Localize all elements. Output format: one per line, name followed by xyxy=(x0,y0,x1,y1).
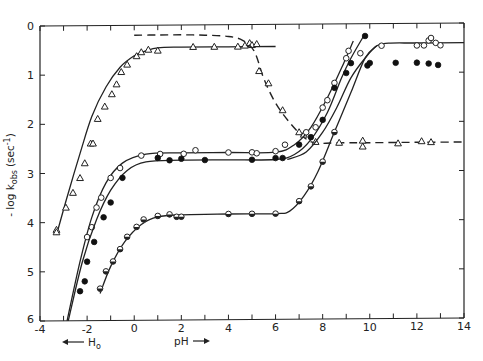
filled-circle-marker xyxy=(120,175,126,181)
filled-circle-marker xyxy=(167,157,173,163)
x-tick-label: 0 xyxy=(131,322,138,335)
filled-circle-marker xyxy=(414,60,420,66)
open-triangle-marker xyxy=(359,143,366,149)
open-circle-marker xyxy=(320,105,326,111)
open-triangle-marker xyxy=(70,189,77,195)
filled-circle-marker xyxy=(343,70,349,76)
filled-circle-marker xyxy=(108,200,114,206)
open-triangle-marker xyxy=(108,91,115,97)
ph-label: pH xyxy=(174,335,189,347)
open-circle-marker xyxy=(346,48,352,54)
filled-circle-marker xyxy=(393,60,399,66)
open-circle-marker xyxy=(94,205,100,211)
series-curve xyxy=(57,47,276,235)
open-circle-marker xyxy=(358,50,364,56)
y-tick-label: 2 xyxy=(27,118,34,131)
x-tick-label: 4 xyxy=(225,322,232,335)
x-tick-label: -4 xyxy=(35,323,46,336)
open-triangle-marker xyxy=(94,115,101,121)
ph-rate-profile-chart: -4-202468101214 0123456 - log kobs(sec-1… xyxy=(0,0,483,361)
filled-circle-marker xyxy=(367,60,373,66)
open-circle-marker xyxy=(379,43,385,49)
x-tick-label: 10 xyxy=(363,321,377,334)
open-circle-marker xyxy=(117,165,123,171)
open-circle-marker xyxy=(303,129,309,135)
open-circle-marker xyxy=(226,150,232,156)
y-axis-tick-labels: 0123456 xyxy=(27,20,34,326)
y-tick-label: 3 xyxy=(27,168,34,181)
open-triangle-marker xyxy=(77,175,84,181)
filled-circle-marker xyxy=(280,155,286,161)
filled-circle-marker xyxy=(320,117,326,123)
y-title-close: ) xyxy=(4,133,16,137)
series-1 xyxy=(134,35,464,149)
open-circle-marker xyxy=(343,55,349,61)
series-2 xyxy=(67,41,353,321)
open-triangle-marker xyxy=(81,160,88,166)
open-circle-marker xyxy=(254,150,260,156)
y-title-sub: obs xyxy=(10,170,19,184)
x-axis-ticks xyxy=(40,23,464,321)
open-circle-marker xyxy=(421,43,427,49)
open-circle-marker xyxy=(98,195,104,201)
open-circle-marker xyxy=(414,43,420,49)
open-circle-marker xyxy=(108,175,114,181)
open-circle-marker xyxy=(273,148,279,154)
filled-circle-marker xyxy=(435,62,441,68)
x-tick-label: 2 xyxy=(178,322,185,335)
y-title-unit: (sec xyxy=(4,145,16,167)
open-triangle-marker xyxy=(113,81,120,87)
y-tick-label: 1 xyxy=(27,69,34,82)
y-title-exp: -1 xyxy=(3,137,12,145)
filled-circle-marker xyxy=(82,279,88,285)
open-triangle-marker xyxy=(253,41,260,47)
filled-circle-marker xyxy=(332,85,338,91)
filled-circle-marker xyxy=(101,215,107,221)
filled-circle-marker xyxy=(77,288,83,294)
x-tick-label: 12 xyxy=(410,320,424,333)
y-axis-title: - log kobs(sec-1) xyxy=(3,133,19,217)
y-title-main: - log k xyxy=(4,183,16,216)
svg-text:- log kobs(sec-1): - log kobs(sec-1) xyxy=(3,133,19,217)
open-circle-marker xyxy=(138,153,144,159)
open-circle-marker xyxy=(438,42,444,48)
open-circle-marker xyxy=(428,35,434,41)
filled-circle-marker xyxy=(362,33,368,39)
open-triangle-marker xyxy=(101,103,108,109)
series-3 xyxy=(68,33,441,321)
series-0 xyxy=(53,40,276,235)
open-triangle-marker xyxy=(418,138,425,144)
filled-circle-marker xyxy=(426,61,432,67)
y-axis-ticks xyxy=(40,23,464,321)
h0-sub: o xyxy=(96,342,101,351)
plot-frame xyxy=(40,23,464,321)
x-tick-label: -2 xyxy=(82,323,93,336)
x-tick-label: 14 xyxy=(457,320,471,333)
svg-text:Ho: Ho xyxy=(88,336,101,351)
filled-circle-marker xyxy=(91,239,97,245)
series-layer xyxy=(53,33,464,321)
filled-circle-marker xyxy=(308,134,314,140)
y-tick-label: 5 xyxy=(27,266,34,279)
filled-circle-marker xyxy=(155,155,161,161)
y-tick-label: 4 xyxy=(27,217,34,230)
x-tick-label: 6 xyxy=(272,321,279,334)
x-axis-tick-labels: -4-202468101214 xyxy=(35,320,471,336)
open-triangle-marker xyxy=(63,204,70,210)
filled-circle-marker xyxy=(348,60,354,66)
filled-circle-marker xyxy=(296,142,302,148)
filled-circle-marker xyxy=(202,157,208,163)
arrow-left-icon xyxy=(62,339,68,345)
filled-circle-marker xyxy=(249,157,255,163)
h0-label: H xyxy=(88,336,96,348)
open-circle-marker xyxy=(282,142,288,148)
series-curve xyxy=(134,35,464,144)
filled-circle-marker xyxy=(273,155,279,161)
y-tick-label: 6 xyxy=(27,313,34,326)
x-axis-title-ph: pH xyxy=(174,335,210,347)
open-circle-marker xyxy=(325,97,331,103)
filled-circle-marker xyxy=(179,156,185,162)
x-axis-title-h0: Ho xyxy=(62,336,101,351)
x-tick-label: 8 xyxy=(319,321,326,334)
open-circle-marker xyxy=(193,147,199,153)
